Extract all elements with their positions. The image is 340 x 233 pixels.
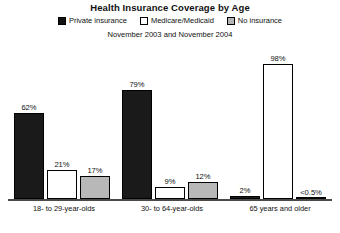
bar-slot-no-insurance: 17% bbox=[80, 45, 110, 199]
bar-value-label: 79% bbox=[129, 80, 144, 89]
bar-group-bars: 79% 9% 12% bbox=[122, 45, 221, 199]
bar-no-insurance bbox=[80, 176, 110, 199]
legend-label-private-insurance: Private insurance bbox=[69, 16, 127, 25]
bar-medicare-medicaid bbox=[263, 64, 293, 199]
bar-medicare-medicaid bbox=[47, 170, 77, 199]
bar-medicare-medicaid bbox=[155, 187, 185, 199]
bar-slot-private-insurance: 2% bbox=[230, 45, 260, 199]
chart-subtitle: November 2003 and November 2004 bbox=[0, 30, 340, 39]
bar-group-bars: 2% 98% <0.5% bbox=[230, 45, 329, 199]
bar-no-insurance bbox=[296, 197, 326, 199]
legend-item-no-insurance: No insurance bbox=[227, 16, 282, 25]
bar-value-label: 98% bbox=[270, 54, 285, 63]
bar-value-label: 12% bbox=[195, 172, 210, 181]
legend-label-no-insurance: No insurance bbox=[238, 16, 282, 25]
bar-slot-medicare-medicaid: 21% bbox=[47, 45, 77, 199]
legend-swatch-medicare-medicaid bbox=[140, 17, 148, 25]
bar-slot-no-insurance: 12% bbox=[188, 45, 218, 199]
legend-item-medicare-medicaid: Medicare/Medicaid bbox=[140, 16, 214, 25]
bar-slot-medicare-medicaid: 9% bbox=[155, 45, 185, 199]
bar-private-insurance bbox=[230, 196, 260, 199]
bar-value-label: 17% bbox=[87, 166, 102, 175]
x-axis-label-18-to-29-year-olds: 18- to 29-year-olds bbox=[4, 204, 124, 213]
bar-group-bars: 62% 21% 17% bbox=[14, 45, 113, 199]
x-axis-label-30-to-64-year-olds: 30- to 64-year-olds bbox=[112, 204, 232, 213]
bar-value-label: 21% bbox=[54, 160, 69, 169]
legend-swatch-private-insurance bbox=[58, 17, 66, 25]
x-axis-label-65-years-and-older: 65 years and older bbox=[220, 204, 340, 213]
chart-title: Health Insurance Coverage by Age bbox=[0, 2, 340, 13]
bar-private-insurance bbox=[122, 90, 152, 199]
bar-slot-medicare-medicaid: 98% bbox=[263, 45, 293, 199]
chart-container: Health Insurance Coverage by Age Private… bbox=[0, 0, 340, 233]
plot-area: 62% 21% 17% 79% bbox=[0, 44, 340, 201]
bar-value-label: 62% bbox=[21, 103, 36, 112]
bar-value-label: 2% bbox=[240, 186, 251, 195]
bar-slot-private-insurance: 62% bbox=[14, 45, 44, 199]
bar-no-insurance bbox=[188, 182, 218, 199]
legend-item-private-insurance: Private insurance bbox=[58, 16, 127, 25]
legend-swatch-no-insurance bbox=[227, 17, 235, 25]
x-axis-line bbox=[8, 199, 332, 201]
bar-group-18-to-29-year-olds: 62% 21% 17% bbox=[14, 45, 113, 199]
bar-group-65-years-and-older: 2% 98% <0.5% bbox=[230, 45, 329, 199]
bar-value-label: 9% bbox=[165, 177, 176, 186]
bar-slot-private-insurance: 79% bbox=[122, 45, 152, 199]
legend-label-medicare-medicaid: Medicare/Medicaid bbox=[151, 16, 214, 25]
chart-legend: Private insurance Medicare/Medicaid No i… bbox=[0, 16, 340, 25]
bar-value-label: <0.5% bbox=[300, 188, 322, 197]
bar-group-30-to-64-year-olds: 79% 9% 12% bbox=[122, 45, 221, 199]
bar-private-insurance bbox=[14, 113, 44, 199]
bar-slot-no-insurance: <0.5% bbox=[296, 45, 326, 199]
